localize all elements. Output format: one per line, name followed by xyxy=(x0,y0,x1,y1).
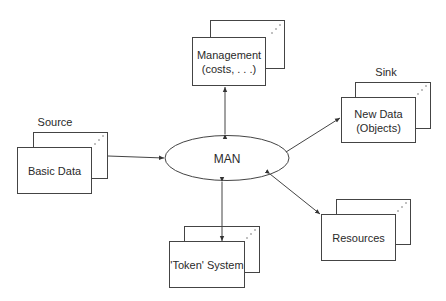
source-caption: Source xyxy=(30,116,80,129)
edge-man-sink xyxy=(286,118,340,152)
resources-label-text: Resources xyxy=(332,231,385,245)
resources-label: Resources xyxy=(321,215,396,261)
source-label: Basic Data xyxy=(17,148,92,194)
sink-caption: Sink xyxy=(366,66,406,79)
management-label: Management (costs, . . .) xyxy=(192,38,266,86)
man-label: MAN xyxy=(165,136,289,181)
sink-label-line2: (Objects) xyxy=(356,121,401,135)
source-label-text: Basic Data xyxy=(28,164,81,178)
man-label-text: MAN xyxy=(214,152,241,166)
sink-label: New Data (Objects) xyxy=(341,98,416,143)
token-label: 'Token' System xyxy=(169,242,245,288)
management-label-line2: (costs, . . .) xyxy=(202,62,256,76)
token-label-text: 'Token' System xyxy=(170,258,243,272)
sink-label-line1: New Data xyxy=(354,107,402,121)
management-label-line1: Management xyxy=(197,48,261,62)
edge-source-man xyxy=(108,156,164,158)
